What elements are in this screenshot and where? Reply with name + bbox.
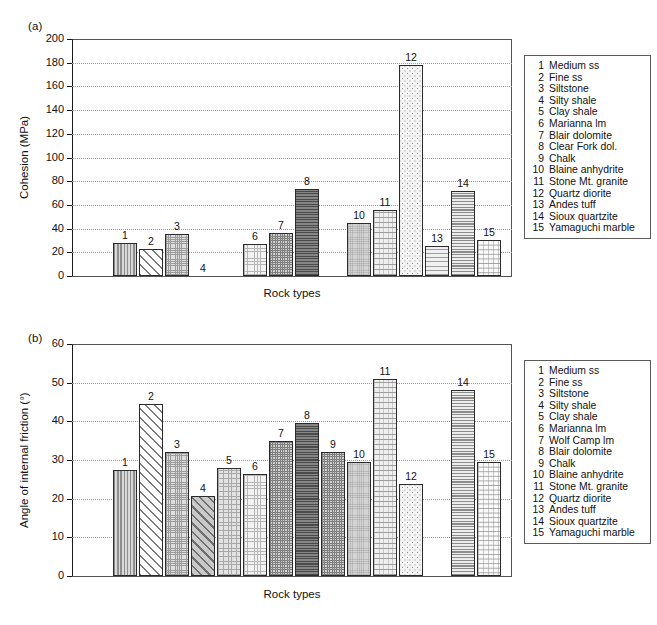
legend-item-number: 1	[529, 60, 544, 72]
legend-b: 1Medium ss2Fine ss3Siltstone4Silty shale…	[524, 360, 651, 544]
legend-item: 2Fine ss	[529, 377, 645, 389]
legend-item-number: 11	[529, 176, 544, 188]
gridline	[72, 63, 512, 65]
y-tick-mark	[67, 344, 72, 345]
bar-label-8: 8	[285, 409, 329, 421]
legend-item-label: Blaine anhydrite	[549, 469, 645, 481]
legend-item: 2Fine ss	[529, 72, 645, 84]
y-tick-mark	[67, 63, 72, 64]
legend-item-label: Andes tuff	[549, 199, 645, 211]
legend-item-label: Silty shale	[549, 400, 645, 412]
legend-item-number: 9	[529, 153, 544, 165]
bar-6	[243, 244, 267, 276]
bar-label-3: 3	[155, 438, 199, 450]
bar-label-11: 11	[363, 365, 407, 377]
legend-item: 1Medium ss	[529, 365, 645, 377]
legend-item: 15Yamaguchi marble	[529, 527, 645, 539]
y-tick-label: 100	[24, 151, 64, 163]
legend-item-number: 12	[529, 188, 544, 200]
y-tick-label: 140	[24, 103, 64, 115]
y-tick-mark	[67, 499, 72, 500]
bar-label-4: 4	[181, 262, 225, 274]
legend-item-number: 5	[529, 106, 544, 118]
bar-15	[477, 462, 501, 576]
bar-5	[217, 468, 241, 576]
legend-item: 10Blaine anhydrite	[529, 164, 645, 176]
legend-item-label: Fine ss	[549, 72, 645, 84]
y-tick-label: 60	[24, 337, 64, 349]
y-tick-mark	[67, 252, 72, 253]
y-tick-label: 50	[24, 376, 64, 388]
legend-item: 8Blair dolomite	[529, 446, 645, 458]
bar-2	[139, 249, 163, 276]
legend-item: 12Quartz diorite	[529, 493, 645, 505]
legend-item-number: 14	[529, 516, 544, 528]
bar-10	[347, 462, 371, 576]
gridline	[72, 86, 512, 88]
y-tick-mark	[67, 86, 72, 87]
bar-4	[191, 496, 215, 576]
y-tick-mark	[67, 181, 72, 182]
legend-a: 1Medium ss2Fine ss3Siltstone4Silty shale…	[524, 55, 651, 239]
chart-panel-a: (a) Cohesion (MPa) 020406080100120140160…	[0, 0, 657, 312]
y-tick-label: 60	[24, 198, 64, 210]
legend-item: 5Clay shale	[529, 106, 645, 118]
y-tick-label: 200	[24, 32, 64, 44]
legend-item-label: Clear Fork dol.	[549, 141, 645, 153]
legend-item-number: 9	[529, 458, 544, 470]
y-tick-mark	[67, 158, 72, 159]
legend-item-number: 15	[529, 527, 544, 539]
legend-item: 7Wolf Camp lm	[529, 435, 645, 447]
legend-item-number: 14	[529, 211, 544, 223]
y-tick-label: 20	[24, 492, 64, 504]
legend-item: 9Chalk	[529, 458, 645, 470]
legend-item-number: 4	[529, 400, 544, 412]
bar-7	[269, 233, 293, 276]
y-tick-mark	[67, 460, 72, 461]
legend-item-label: Wolf Camp lm	[549, 435, 645, 447]
legend-item-label: Chalk	[549, 458, 645, 470]
bar-label-12: 12	[389, 470, 433, 482]
bar-15	[477, 240, 501, 276]
x-axis-title-b: Rock types	[72, 588, 512, 600]
bar-7	[269, 441, 293, 576]
bar-label-14: 14	[441, 376, 485, 388]
legend-item-label: Blair dolomite	[549, 130, 645, 142]
legend-item: 8Clear Fork dol.	[529, 141, 645, 153]
y-tick-label: 120	[24, 127, 64, 139]
bar-label-8: 8	[285, 175, 329, 187]
bar-3	[165, 452, 189, 576]
panel-a-label: (a)	[28, 20, 42, 32]
legend-item: 13Andes tuff	[529, 199, 645, 211]
legend-item: 14Sioux quartzite	[529, 211, 645, 223]
legend-item-label: Stone Mt. granite	[549, 176, 645, 188]
legend-item-label: Blaine anhydrite	[549, 164, 645, 176]
legend-item-number: 6	[529, 118, 544, 130]
y-tick-mark	[67, 134, 72, 135]
legend-item-number: 15	[529, 222, 544, 234]
legend-item: 11Stone Mt. granite	[529, 176, 645, 188]
legend-item-number: 13	[529, 504, 544, 516]
legend-item-label: Silty shale	[549, 95, 645, 107]
legend-item: 14Sioux quartzite	[529, 516, 645, 528]
y-tick-mark	[67, 537, 72, 538]
bar-label-14: 14	[441, 177, 485, 189]
bar-11	[373, 210, 397, 276]
bar-1	[113, 470, 137, 576]
y-tick-label: 10	[24, 530, 64, 542]
legend-item: 4Silty shale	[529, 95, 645, 107]
y-tick-label: 0	[24, 569, 64, 581]
legend-item-label: Sioux quartzite	[549, 211, 645, 223]
legend-item-label: Siltstone	[549, 83, 645, 95]
legend-item-number: 13	[529, 199, 544, 211]
y-tick-mark	[67, 421, 72, 422]
legend-item: 7Blair dolomite	[529, 130, 645, 142]
legend-item: 6Marianna lm	[529, 423, 645, 435]
legend-item-label: Andes tuff	[549, 504, 645, 516]
bar-label-15: 15	[467, 226, 511, 238]
legend-item-label: Marianna lm	[549, 423, 645, 435]
bar-13	[425, 246, 449, 276]
x-axis-title-a: Rock types	[72, 287, 512, 299]
legend-item-number: 8	[529, 141, 544, 153]
legend-item-label: Medium ss	[549, 365, 645, 377]
